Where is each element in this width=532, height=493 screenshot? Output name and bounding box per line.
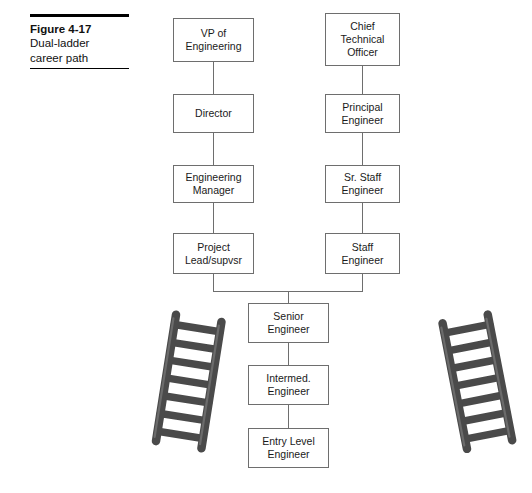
- connector-common-1: [288, 343, 289, 365]
- connector-management-4: [213, 274, 214, 291]
- node-label: Director: [193, 107, 234, 120]
- connector-management-2: [213, 133, 214, 165]
- caption-text: Figure 4-17 Dual-ladder career path: [30, 17, 129, 69]
- node-entry-level-engineer[interactable]: Entry Level Engineer: [248, 428, 329, 468]
- connector-management-3: [213, 203, 214, 233]
- figure-title-line-1: Dual-ladder: [30, 36, 129, 51]
- connector-technical-1: [362, 66, 363, 94]
- ladder-icon-right: [424, 308, 529, 453]
- node-vp-of-engineering[interactable]: VP of Engineering: [173, 18, 254, 62]
- connector-management-1: [213, 62, 214, 94]
- connector-technical-3: [362, 203, 363, 233]
- node-label: Project Lead/supvsr: [183, 241, 244, 267]
- node-senior-engineer[interactable]: Senior Engineer: [248, 303, 329, 343]
- node-project-lead-supervisor[interactable]: Project Lead/supvsr: [173, 233, 254, 274]
- figure-number: Figure 4-17: [30, 22, 129, 37]
- figure-title-line-2: career path: [30, 51, 129, 66]
- caption-rule-bottom: [30, 68, 129, 69]
- node-label: Entry Level Engineer: [260, 435, 317, 461]
- node-label: Engineering Manager: [183, 171, 243, 197]
- node-label: Chief Technical Officer: [339, 20, 387, 59]
- node-intermediate-engineer[interactable]: Intermed. Engineer: [248, 365, 329, 405]
- node-chief-technical-officer[interactable]: Chief Technical Officer: [325, 13, 400, 66]
- node-sr-staff-engineer[interactable]: Sr. Staff Engineer: [325, 165, 400, 203]
- node-label: Senior Engineer: [265, 310, 311, 336]
- connector-merge-stem: [288, 291, 289, 303]
- ladder-icon-left: [140, 308, 245, 453]
- connector-common-2: [288, 405, 289, 428]
- node-label: Intermed. Engineer: [264, 372, 312, 398]
- node-staff-engineer[interactable]: Staff Engineer: [325, 233, 400, 274]
- node-label: Staff Engineer: [339, 241, 385, 267]
- node-principal-engineer[interactable]: Principal Engineer: [325, 94, 400, 133]
- node-director[interactable]: Director: [173, 94, 254, 133]
- node-label: Sr. Staff Engineer: [339, 171, 385, 197]
- figure-caption: Figure 4-17 Dual-ladder career path: [30, 14, 129, 69]
- connector-technical-4: [362, 274, 363, 291]
- node-label: Principal Engineer: [339, 101, 385, 127]
- connector-technical-2: [362, 133, 363, 165]
- node-engineering-manager[interactable]: Engineering Manager: [173, 165, 254, 203]
- node-label: VP of Engineering: [183, 27, 243, 53]
